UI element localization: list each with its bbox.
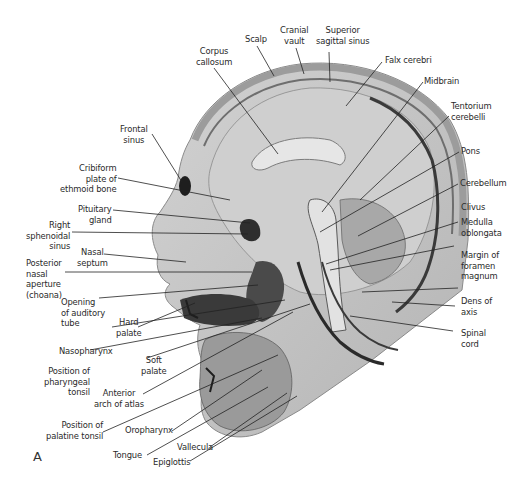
label-position-pharyngeal-tonsil: Position of pharyngeal tonsil [44, 366, 90, 398]
label-anterior-arch-atlas: Anterior arch of atlas [94, 388, 144, 409]
label-cribiform-plate: Cribiform plate of ethmoid bone [60, 163, 116, 195]
label-falx-cerebri: Falx cerebri [385, 55, 432, 66]
label-oropharynx: Oropharynx [125, 425, 173, 436]
label-soft-palate: Soft palate [141, 355, 166, 376]
label-corpus-callosum: Corpus callosum [196, 46, 232, 67]
panel-letter: A [33, 449, 42, 464]
label-opening-auditory-tube: Opening of auditory tube [61, 297, 105, 329]
label-spinal-cord: Spinal cord [461, 328, 486, 349]
label-clivus: Clivus [461, 202, 485, 213]
label-superior-sagittal-sinus: Superior sagittal sinus [316, 25, 369, 46]
label-pituitary-gland: Pituitary gland [78, 204, 112, 225]
specimen-illustration [0, 0, 512, 485]
label-medulla-oblongata: Medulla oblongata [461, 217, 502, 238]
label-cerebellum: Cerebellum [460, 178, 507, 189]
label-nasal-septum: Nasal septum [77, 247, 108, 268]
label-dens-of-axis: Dens of axis [461, 296, 492, 317]
label-hard-palate: Hard palate [116, 317, 141, 338]
label-position-palatine-tonsil: Position of palatine tonsil [46, 420, 103, 441]
label-frontal-sinus: Frontal sinus [120, 124, 148, 145]
label-scalp: Scalp [245, 34, 267, 45]
label-margin-foramen-magnum: Margin of foramen magnum [461, 250, 499, 282]
label-midbrain: Midbrain [424, 76, 459, 87]
label-posterior-nasal-aperture: Posterior nasal aperture (choana) [26, 258, 62, 300]
label-epiglottis: Epiglottis [153, 457, 190, 468]
label-cranial-vault: Cranial vault [280, 25, 308, 46]
anatomy-figure: Scalp Cranial vault Superior sagittal si… [0, 0, 512, 485]
label-pons: Pons [461, 146, 480, 157]
label-tongue: Tongue [113, 450, 142, 461]
label-vallecula: Vallecula [177, 442, 213, 453]
label-tentorium-cerebelli: Tentorium cerebelli [451, 101, 491, 122]
label-right-sphenoidal-sinus: Right sphenoidal sinus [26, 220, 70, 252]
label-nasopharynx: Nasopharynx [59, 346, 113, 357]
frontal-sinus-shape [179, 176, 191, 196]
